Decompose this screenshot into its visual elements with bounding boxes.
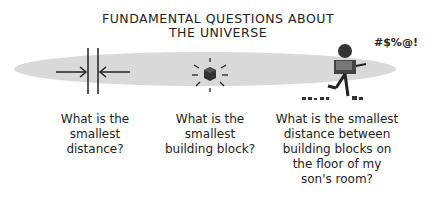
- caption-line: the floor of my: [262, 157, 412, 172]
- caption-line: What is the smallest: [262, 112, 412, 127]
- caption-smallest-building-block: What is the smallest building block?: [155, 112, 265, 157]
- caption-blocks-on-floor: What is the smallest distance between bu…: [262, 112, 412, 187]
- caption-smallest-distance: What is the smallest distance?: [50, 112, 140, 157]
- title-line-2: THE UNIVERSE: [0, 26, 436, 40]
- caption-line: smallest: [50, 127, 140, 142]
- caption-line: distance between: [262, 127, 412, 142]
- man-stepping-on-blocks-icon: [300, 42, 380, 104]
- caption-line: What is the: [50, 112, 140, 127]
- caption-line: smallest: [155, 127, 265, 142]
- caption-line: son's room?: [262, 172, 412, 187]
- caption-line: distance?: [50, 142, 140, 157]
- exclamation-text: #$%@!: [374, 36, 418, 49]
- caption-line: building blocks on: [262, 142, 412, 157]
- caption-line: What is the: [155, 112, 265, 127]
- title-line-1: FUNDAMENTAL QUESTIONS ABOUT: [0, 12, 436, 26]
- glowing-cube-icon: [190, 58, 230, 94]
- caption-line: building block?: [155, 142, 265, 157]
- distance-arrows-icon: [52, 46, 132, 96]
- comic-title: FUNDAMENTAL QUESTIONS ABOUT THE UNIVERSE: [0, 12, 436, 40]
